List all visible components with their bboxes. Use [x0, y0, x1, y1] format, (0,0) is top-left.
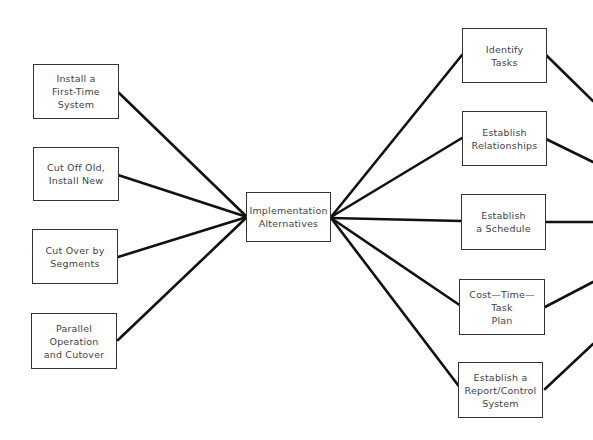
node-identify-tasks: Identify Tasks: [462, 28, 547, 83]
edge-right-2: [331, 138, 462, 217]
node-cost-time-task-plan: Cost—Time—Task Plan: [459, 279, 545, 335]
node-label: Establish a Report/Control System: [465, 371, 537, 410]
edge-left-4: [118, 217, 247, 340]
node-install-first-time-system: Install a First-Time System: [33, 64, 119, 119]
node-parallel-operation-cutover: Parallel Operation and Cutover: [31, 313, 117, 369]
node-label: Establish Relationships: [472, 126, 538, 152]
node-label: Install a First-Time System: [52, 72, 100, 111]
node-establish-schedule: Establish a Schedule: [461, 194, 546, 250]
node-label: Implementation Alternatives: [249, 204, 327, 230]
node-establish-report-control-system: Establish a Report/Control System: [458, 362, 543, 418]
edge-right-1: [331, 55, 462, 217]
edge-out-1: [546, 55, 593, 101]
node-cut-over-by-segments: Cut Over by Segments: [32, 229, 118, 284]
node-label: Identify Tasks: [486, 43, 523, 69]
edge-right-4: [331, 218, 461, 306]
node-implementation-alternatives: Implementation Alternatives: [246, 192, 331, 242]
node-label: Cut Over by Segments: [45, 244, 104, 270]
edge-left-1: [118, 92, 247, 217]
node-establish-relationships: Establish Relationships: [462, 111, 547, 166]
edge-right-3: [331, 218, 462, 221]
edge-left-2: [118, 175, 247, 217]
node-label: Cost—Time—Task Plan: [460, 288, 544, 327]
edge-right-5: [331, 218, 461, 389]
node-label: Parallel Operation and Cutover: [44, 322, 105, 361]
edge-out-2: [546, 139, 593, 162]
node-cut-off-old-install-new: Cut Off Old, Install New: [33, 147, 119, 201]
edge-out-4: [545, 282, 593, 307]
edge-out-5: [545, 344, 593, 389]
node-label: Establish a Schedule: [476, 209, 531, 235]
node-label: Cut Off Old, Install New: [47, 161, 105, 187]
